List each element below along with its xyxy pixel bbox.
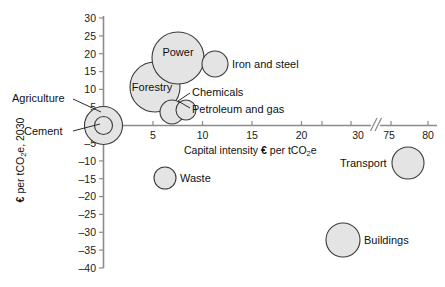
bubble-cement[interactable] <box>95 117 113 135</box>
x-axis-title: Capital intensity € per tCO2e <box>184 144 317 158</box>
bubble-power[interactable] <box>152 32 204 84</box>
x-tick-label-15: 15 <box>246 129 258 141</box>
y-tick-label-30: 30 <box>84 12 96 24</box>
y-tick-label--15: –15 <box>78 173 96 185</box>
x-tick-label-30: 30 <box>352 129 364 141</box>
label-buildings: Buildings <box>364 234 409 246</box>
label-transport: Transport <box>340 157 387 169</box>
label-agriculture: Agriculture <box>12 92 65 104</box>
x-axis-ticks: 5 10 15 20 30 75 80 <box>150 121 434 141</box>
x-axis-title-suffix: e <box>311 144 317 156</box>
x-axis-title-mid: per tCO <box>267 144 307 156</box>
label-cement: Cement <box>24 125 63 137</box>
y-tick-label--25: –25 <box>78 208 96 220</box>
x-tick-label-75: 75 <box>383 129 395 141</box>
y-tick-label--20: –20 <box>78 190 96 202</box>
x-axis-title-prefix: Capital intensity <box>184 144 261 156</box>
x-tick-label-20: 20 <box>296 129 308 141</box>
y-tick-label--35: –35 <box>78 244 96 256</box>
chart-canvas: 30 25 20 15 10 5 –5 –10 –15 –20 –25 –30 … <box>0 0 445 287</box>
x-tick-label-10: 10 <box>197 129 209 141</box>
bubble-iron-and-steel[interactable] <box>202 51 228 77</box>
bubble-waste[interactable] <box>154 167 176 189</box>
label-waste: Waste <box>180 172 211 184</box>
label-iron-and-steel: Iron and steel <box>232 58 299 70</box>
bubble-buildings[interactable] <box>326 223 360 257</box>
y-tick-label--30: –30 <box>78 226 96 238</box>
bubble-transport[interactable] <box>392 147 424 179</box>
y-axis-title-prefix: per tCO <box>14 157 26 197</box>
leader-agriculture <box>73 99 101 112</box>
x-tick-label-80: 80 <box>422 129 434 141</box>
label-petroleum-and-gas: Petroleum and gas <box>192 103 285 115</box>
label-power: Power <box>162 46 194 58</box>
y-tick-label-15: 15 <box>84 65 96 77</box>
y-tick-label-25: 25 <box>84 30 96 42</box>
label-chemicals: Chemicals <box>192 86 244 98</box>
y-tick-label-10: 10 <box>84 83 96 95</box>
y-tick-label--40: –40 <box>78 262 96 274</box>
x-tick-label-5: 5 <box>150 129 156 141</box>
y-tick-label-20: 20 <box>84 48 96 60</box>
label-forestry: Forestry <box>132 81 173 93</box>
y-tick-label--10: –10 <box>78 155 96 167</box>
bubble-chart-figure: 30 25 20 15 10 5 –5 –10 –15 –20 –25 –30 … <box>0 0 445 287</box>
